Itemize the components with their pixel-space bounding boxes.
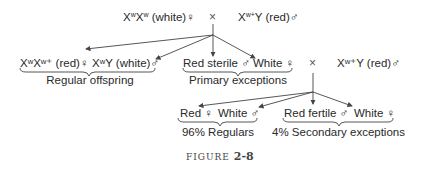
- secondary-exceptions-4-label: 4% Secondary exceptions: [272, 126, 404, 138]
- cross-symbol-2: ×: [309, 57, 316, 69]
- offspring-red-female: XʷXʷ⁺ (red)♀: [20, 57, 89, 69]
- genotype-x: X: [238, 11, 246, 23]
- figure-label: FIGURE: [186, 152, 230, 162]
- regular-offspring-label: Regular offspring: [20, 74, 160, 86]
- parent-male-red: Xw+Y (red)♂: [238, 11, 298, 23]
- figure-number: 2-8: [234, 150, 254, 163]
- parent-female-white: XwXw (white)♀: [123, 11, 195, 23]
- phenotype: (white): [152, 11, 187, 23]
- genotype-y: Y: [255, 11, 262, 23]
- genotype-x: X: [123, 11, 131, 23]
- allele-sup: w+: [246, 11, 255, 18]
- primary-exceptions-label: Primary exceptions: [183, 74, 293, 86]
- primary-exception-white-female: White ♀: [253, 57, 294, 69]
- secondary-exception-red-fertile-male: Red fertile ♂: [284, 107, 348, 119]
- regulars-96-label: 96% Regulars: [176, 126, 260, 138]
- male-symbol-icon: ♂: [290, 11, 299, 23]
- female-symbol-icon: ♀: [186, 11, 195, 23]
- allele-sup: w: [143, 11, 148, 18]
- regular-white-male: White ♂: [218, 107, 259, 119]
- regular-red-female: Red ♀: [180, 107, 213, 119]
- figure-caption: FIGURE 2-8: [186, 150, 254, 163]
- cross-symbol-1: ×: [209, 11, 216, 23]
- phenotype: (red): [266, 11, 290, 23]
- offspring-white-male: XʷY (white)♂: [92, 57, 159, 69]
- primary-exception-red-sterile-male: Red sterile ♂: [183, 57, 250, 69]
- secondary-exception-white-female: White ♀: [354, 107, 395, 119]
- parent-male-red-2: Xʷ⁺Y (red)♂: [337, 57, 400, 69]
